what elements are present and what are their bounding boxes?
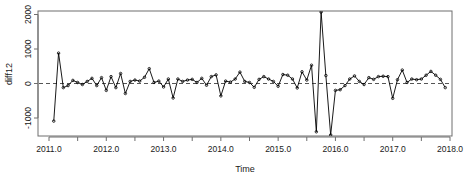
x-tick-label: 2018.0 [437,144,463,154]
timeseries-plot: -1000010002000 2011.02012.02013.02014.02… [0,0,465,177]
x-tick-label: 2011.0 [36,144,62,154]
plot-background [38,11,452,136]
y-tick-label: -1000 [23,107,33,129]
plot-panel [38,11,452,136]
y-tick-label: 2000 [23,5,33,24]
x-tick-label: 2017.0 [380,144,406,154]
x-tick-label: 2016.0 [322,144,348,154]
chart-root: -1000010002000 2011.02012.02013.02014.02… [0,0,465,177]
x-tick-label: 2015.0 [265,144,291,154]
y-axis-title: diff12 [4,63,14,85]
x-tick-label: 2013.0 [151,144,177,154]
x-axis-title: Time [235,164,255,174]
x-tick-label: 2012.0 [93,144,119,154]
y-tick-label: 0 [23,81,33,86]
x-axis-ticks: 2011.02012.02013.02014.02015.02016.02017… [36,137,463,154]
y-axis-ticks: -1000010002000 [23,5,38,129]
y-tick-label: 1000 [23,39,33,58]
x-tick-label: 2014.0 [208,144,234,154]
